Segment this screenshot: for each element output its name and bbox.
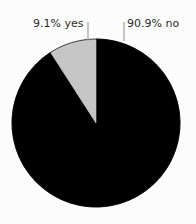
pie-chart-canvas	[0, 0, 196, 224]
pie-label-yes: 9.1% yes	[33, 17, 83, 30]
pie-chart-figure: 9.1% yes 90.9% no	[0, 0, 196, 224]
pie-label-no: 90.9% no	[127, 17, 179, 30]
